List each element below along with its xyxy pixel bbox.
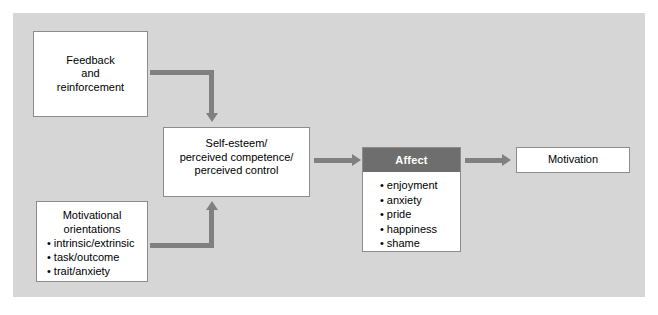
connector-motivational-vertical-segment xyxy=(209,210,214,248)
bullet-icon: • xyxy=(380,179,384,191)
bullet-icon: • xyxy=(380,194,384,206)
connector-self-esteem-to-affect-arrowhead-icon xyxy=(352,154,361,166)
list-item-label: trait/anxiety xyxy=(54,265,110,277)
box-self-esteem-line-1: Self-esteem/ xyxy=(180,137,294,151)
box-feedback-text: Feedback and reinforcement xyxy=(51,54,130,95)
box-motivational-orientations-title-line-2: orientations xyxy=(37,223,147,237)
connector-feedback-horizontal-segment xyxy=(150,70,214,75)
bullet-icon: • xyxy=(47,237,51,249)
list-item-label: enjoyment xyxy=(387,179,438,191)
bullet-icon: • xyxy=(47,265,51,277)
list-item: •trait/anxiety xyxy=(47,264,147,278)
list-item-label: happiness xyxy=(387,223,437,235)
list-item-label: task/outcome xyxy=(54,251,119,263)
box-motivational-orientations-title-line-1: Motivational xyxy=(37,209,147,223)
bullet-icon: • xyxy=(47,251,51,263)
list-item: •enjoyment xyxy=(380,178,460,193)
list-item-label: anxiety xyxy=(387,194,422,206)
list-item-label: shame xyxy=(387,237,420,249)
connector-motivational-arrowhead-icon xyxy=(206,201,218,210)
box-motivation: Motivation xyxy=(516,147,630,173)
box-feedback-line-3: reinforcement xyxy=(57,81,124,95)
box-self-esteem-line-3: perceived control xyxy=(180,164,294,178)
list-item: •happiness xyxy=(380,222,460,237)
connector-feedback-arrowhead-icon xyxy=(206,113,218,122)
connector-self-esteem-to-affect-segment xyxy=(314,158,353,163)
box-feedback-line-2: and xyxy=(57,67,124,81)
box-self-esteem-text: Self-esteem/ perceived competence/ perce… xyxy=(180,137,294,178)
list-item: •task/outcome xyxy=(47,250,147,264)
diagram-canvas: Feedback and reinforcement Self-esteem/ … xyxy=(0,0,658,315)
connector-motivational-horizontal-segment xyxy=(150,243,214,248)
list-item: •intrinsic/extrinsic xyxy=(47,236,147,250)
box-affect-header: Affect xyxy=(363,148,460,172)
bullet-icon: • xyxy=(380,237,384,249)
list-item-label: intrinsic/extrinsic xyxy=(54,237,135,249)
connector-affect-to-motivation-segment xyxy=(465,158,503,163)
list-item-label: pride xyxy=(387,208,411,220)
box-affect-list: •enjoyment •anxiety •pride •happiness •s… xyxy=(363,172,460,251)
connector-affect-to-motivation-arrowhead-icon xyxy=(502,154,511,166)
bullet-icon: • xyxy=(380,223,384,235)
box-self-esteem: Self-esteem/ perceived competence/ perce… xyxy=(163,127,310,197)
connector-feedback-vertical-segment xyxy=(209,70,214,114)
box-motivation-label: Motivation xyxy=(548,153,598,167)
box-feedback-and-reinforcement: Feedback and reinforcement xyxy=(33,31,148,117)
box-affect: Affect •enjoyment •anxiety •pride •happi… xyxy=(362,147,461,252)
list-item: •anxiety xyxy=(380,193,460,208)
list-item: •pride xyxy=(380,207,460,222)
box-motivational-orientations-title: Motivational orientations xyxy=(37,209,147,236)
box-feedback-line-1: Feedback xyxy=(57,54,124,68)
box-motivational-orientations-list: •intrinsic/extrinsic •task/outcome •trai… xyxy=(37,236,147,278)
box-self-esteem-line-2: perceived competence/ xyxy=(180,151,294,165)
bullet-icon: • xyxy=(380,208,384,220)
list-item: •shame xyxy=(380,236,460,251)
box-motivational-orientations: Motivational orientations •intrinsic/ext… xyxy=(36,201,148,282)
